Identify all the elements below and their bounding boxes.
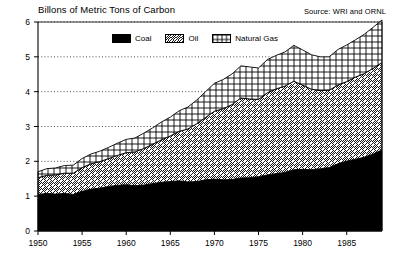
y-tick-label: 0 [16, 226, 30, 236]
legend-label-coal: Coal [135, 34, 151, 43]
x-tick-label: 1975 [239, 238, 279, 248]
x-tick-label: 1970 [194, 238, 234, 248]
y-tick-label: 4 [16, 87, 30, 97]
legend-swatch-coal [112, 34, 131, 43]
legend-item-oil: Oil [165, 34, 198, 43]
x-tick-label: 1950 [18, 238, 58, 248]
legend-label-natural-gas: Natural Gas [235, 34, 278, 43]
y-tick-label: 1 [16, 191, 30, 201]
y-tick-label: 6 [16, 17, 30, 27]
legend-swatch-oil [165, 34, 184, 43]
area-series-group [38, 20, 382, 231]
chart-legend: Coal Oil Natural Gas [112, 34, 278, 43]
legend-swatch-natural-gas [212, 34, 231, 43]
chart-figure: Billons of Metric Tons of Carbon Source:… [0, 0, 398, 270]
x-tick-label: 1965 [150, 238, 190, 248]
x-tick-label: 1955 [62, 238, 102, 248]
x-tick-label: 1985 [327, 238, 367, 248]
legend-item-natural-gas: Natural Gas [212, 34, 278, 43]
legend-label-oil: Oil [188, 34, 198, 43]
legend-item-coal: Coal [112, 34, 151, 43]
x-tick-label: 1960 [106, 238, 146, 248]
y-tick-label: 3 [16, 122, 30, 132]
y-tick-label: 2 [16, 156, 30, 166]
x-tick-label: 1980 [283, 238, 323, 248]
y-tick-label: 5 [16, 52, 30, 62]
